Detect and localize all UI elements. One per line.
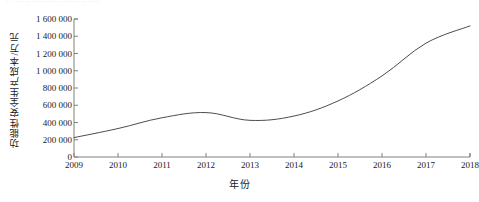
x-axis-tick-label: 2017 xyxy=(417,160,435,171)
axis-lines xyxy=(74,19,470,157)
page-text-remnant: · · ··· ·· ······ ···· ····· ···· ····· xyxy=(6,0,246,6)
plot-area xyxy=(74,19,470,157)
y-axis-tick-label: 400 000 xyxy=(43,118,72,127)
data-series-line xyxy=(74,26,470,138)
x-axis-tick-labels: 2009201020112012201320142015201620172018 xyxy=(74,160,470,174)
x-axis-tick-label: 2012 xyxy=(197,160,215,171)
y-axis-tick-label: 1 600 000 xyxy=(36,15,72,24)
chart-figure: · · ··· ·· ······ ···· ····· ···· ····· … xyxy=(0,0,479,202)
y-axis-title-text: 功能性安全生产成本/万元 xyxy=(11,32,21,148)
y-axis-tick-label: 1 000 000 xyxy=(36,66,72,75)
y-axis-tick-label: 200 000 xyxy=(43,135,72,144)
y-axis-tick-label: 600 000 xyxy=(43,101,72,110)
y-axis-ticks xyxy=(74,19,78,157)
plot-svg xyxy=(74,19,470,157)
x-axis-tick-label: 2013 xyxy=(241,160,259,171)
y-axis-tick-label: 1 200 000 xyxy=(36,49,72,58)
x-axis-tick-label: 2016 xyxy=(373,160,391,171)
y-axis-tick-label: 800 000 xyxy=(43,84,72,93)
x-axis-tick-label: 2018 xyxy=(461,160,479,171)
data-series-group xyxy=(74,26,470,138)
y-axis-tick-label: 1 400 000 xyxy=(36,32,72,41)
x-axis-tick-label: 2015 xyxy=(329,160,347,171)
x-axis-tick-label: 2011 xyxy=(153,160,171,171)
x-axis-tick-label: 2010 xyxy=(109,160,127,171)
x-axis-tick-label: 2014 xyxy=(285,160,303,171)
y-axis-tick-labels: 0200 000400 000600 000800 0001 000 0001 … xyxy=(22,14,72,164)
x-axis-tick-label: 2009 xyxy=(65,160,83,171)
x-axis-ticks xyxy=(74,153,470,157)
x-axis-title: 年份 xyxy=(0,179,479,191)
